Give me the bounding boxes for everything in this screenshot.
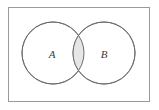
venn-diagram-canvas: A B <box>0 0 159 110</box>
venn-diagram-figure: A B <box>0 0 159 110</box>
set-a-label: A <box>48 48 56 60</box>
set-b-label: B <box>101 48 108 60</box>
